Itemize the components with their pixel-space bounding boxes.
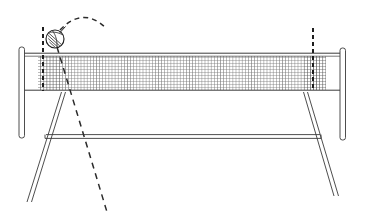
net-mesh-right-panel: [304, 56, 326, 90]
volleyball-net-diagram: [0, 0, 365, 219]
net-mesh-main-panel: [62, 56, 304, 90]
net-assembly: [20, 53, 341, 90]
net-right-blank-strip: [326, 56, 338, 90]
diagram-canvas: [0, 0, 365, 219]
right-net-post: [340, 48, 346, 140]
left-net-post: [19, 47, 25, 138]
net-mesh-left-panel: [38, 56, 62, 90]
